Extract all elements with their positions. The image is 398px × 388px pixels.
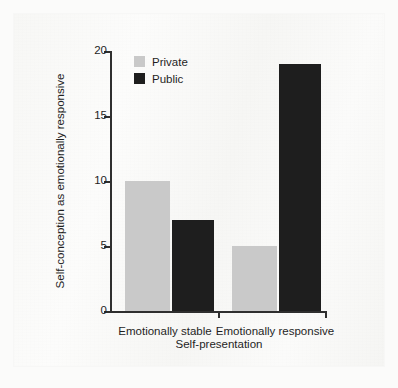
legend-label-public: Public bbox=[152, 73, 183, 85]
legend-swatch-icon-public bbox=[134, 73, 145, 84]
bar-public-emotionally-responsive bbox=[279, 64, 321, 311]
plot-area: 0 5 10 15 20 Emotionally stable Emotiona… bbox=[111, 51, 327, 311]
legend-item-private: Private bbox=[134, 53, 188, 70]
x-category-label-1: Emotionally responsive bbox=[214, 324, 336, 338]
bar-private-emotionally-responsive bbox=[232, 246, 277, 311]
legend-item-public: Public bbox=[134, 70, 188, 87]
bar-private-emotionally-stable bbox=[125, 181, 170, 311]
x-axis-title: Self-presentation bbox=[111, 338, 327, 350]
y-axis-title: Self-conception as emotionally responsiv… bbox=[52, 51, 68, 311]
x-category-label-0: Emotionally stable bbox=[106, 324, 224, 338]
y-tick-label: 20 bbox=[94, 43, 107, 57]
legend-label-private: Private bbox=[152, 56, 188, 68]
y-tick-label: 0 bbox=[101, 303, 107, 317]
y-tick-label: 10 bbox=[94, 173, 107, 187]
legend: Private Public bbox=[134, 53, 188, 87]
legend-swatch-icon-private bbox=[134, 56, 145, 67]
x-tick-mark-mid bbox=[218, 312, 220, 318]
x-tick-mark-end bbox=[325, 312, 327, 318]
figure-container: Self-conception as emotionally responsiv… bbox=[0, 0, 398, 388]
y-axis-spine bbox=[110, 51, 112, 312]
y-tick-label: 5 bbox=[101, 238, 107, 252]
y-tick-label: 15 bbox=[94, 108, 107, 122]
bar-public-emotionally-stable bbox=[172, 220, 214, 311]
